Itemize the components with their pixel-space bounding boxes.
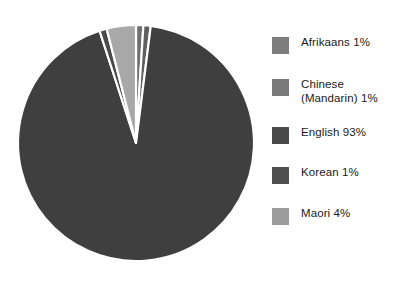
legend-label-chinese-mandarin: Chinese (Mandarin) 1% — [301, 78, 378, 105]
legend-item-english[interactable]: English 93% — [272, 126, 412, 144]
pie-chart-plot-area — [8, 14, 264, 272]
legend-swatch-chinese-mandarin — [272, 79, 289, 96]
legend-swatch-korean — [272, 167, 289, 184]
pie-chart-svg — [8, 14, 264, 272]
pie-chart-figure: Afrikaans 1% Chinese (Mandarin) 1% Engli… — [0, 0, 414, 282]
legend-swatch-english — [272, 127, 289, 144]
legend-item-korean[interactable]: Korean 1% — [272, 166, 412, 184]
chart-legend: Afrikaans 1% Chinese (Mandarin) 1% Engli… — [272, 30, 412, 260]
legend-label-afrikaans: Afrikaans 1% — [301, 36, 370, 50]
legend-item-chinese-mandarin[interactable]: Chinese (Mandarin) 1% — [272, 78, 412, 105]
legend-label-korean: Korean 1% — [301, 166, 359, 180]
legend-swatch-maori — [272, 208, 289, 225]
legend-item-afrikaans[interactable]: Afrikaans 1% — [272, 36, 412, 54]
legend-label-english: English 93% — [301, 126, 366, 140]
legend-swatch-afrikaans — [272, 37, 289, 54]
legend-label-maori: Maori 4% — [301, 207, 350, 221]
legend-item-maori[interactable]: Maori 4% — [272, 207, 412, 225]
pie-slice-group — [18, 25, 254, 261]
